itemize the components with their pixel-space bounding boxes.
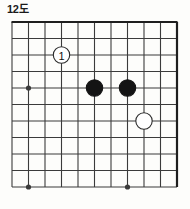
star-point — [125, 184, 130, 189]
stone-black[interactable] — [86, 80, 102, 96]
stone-white[interactable] — [136, 113, 152, 129]
black-stone-icon[interactable] — [86, 80, 102, 96]
go-board[interactable]: 1 — [0, 18, 190, 204]
stone-white[interactable]: 1 — [53, 47, 69, 63]
black-stone-icon[interactable] — [119, 80, 135, 96]
white-stone-icon[interactable] — [136, 113, 152, 129]
figure-caption: 12도 — [7, 2, 28, 16]
star-point — [26, 184, 31, 189]
star-point — [26, 85, 31, 90]
stone-black[interactable] — [119, 80, 135, 96]
go-diagram-figure: 12도 1 — [0, 0, 190, 209]
grid-lines — [12, 22, 177, 187]
stone-move-number: 1 — [58, 50, 64, 62]
go-board-canvas[interactable]: 1 — [0, 18, 190, 204]
